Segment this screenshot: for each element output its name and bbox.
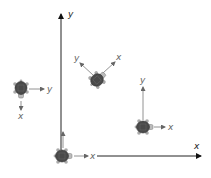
turtle-origin-frame: x — [54, 132, 96, 164]
world-y-label: y — [67, 9, 74, 19]
turtle-right-frame: y x — [135, 75, 174, 135]
turtle-frames-diagram: y x x y x x y y x — [0, 0, 211, 178]
turtle-left-frame: y x — [13, 80, 53, 121]
turtle-left-y-label: y — [46, 84, 53, 94]
turtle-rotated-y-label: y — [73, 53, 80, 63]
turtle-rotated-frame: x y — [73, 52, 122, 91]
turtle-icon — [13, 80, 29, 98]
turtle-right-y-label: y — [139, 75, 146, 85]
world-x-label: x — [193, 141, 200, 151]
turtle-icon — [54, 148, 72, 164]
turtle-rotated-y-arrow — [80, 63, 93, 75]
turtle-rotated-x-label: x — [115, 52, 122, 62]
world-frame: y x — [61, 9, 201, 156]
turtle-left-x-label: x — [17, 111, 24, 121]
turtle-right-x-label: x — [167, 122, 174, 132]
turtle-icon — [135, 119, 153, 135]
turtle-rotated-x-arrow — [103, 62, 115, 73]
turtle-origin-x-label: x — [89, 151, 96, 161]
